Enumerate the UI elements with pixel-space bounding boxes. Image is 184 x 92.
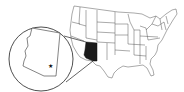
star-marker-icon: ★: [48, 63, 53, 69]
arizona-highlight: [84, 42, 97, 61]
locator-map: ★: [0, 0, 184, 92]
us-map: [70, 6, 177, 78]
map-canvas: ★: [0, 0, 184, 92]
